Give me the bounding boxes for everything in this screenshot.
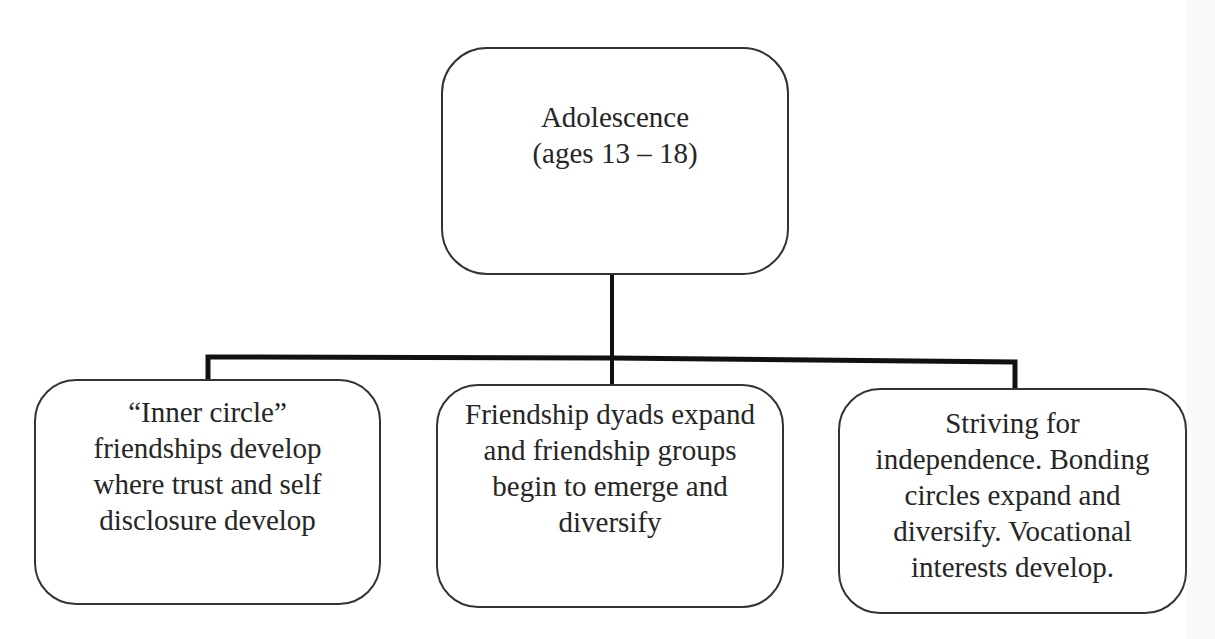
- root-node-label: Adolescence (ages 13 – 18): [443, 49, 787, 171]
- child-node-label: Friendship dyads expand and friendship g…: [438, 386, 782, 540]
- child-node-inner-circle: “Inner circle” friendships develop where…: [34, 379, 381, 605]
- child-node-label: “Inner circle” friendships develop where…: [36, 381, 379, 538]
- child-node-friendship-dyads: Friendship dyads expand and friendship g…: [436, 384, 784, 608]
- root-node-adolescence: Adolescence (ages 13 – 18): [441, 47, 789, 275]
- child-node-independence: Striving for independence. Bonding circl…: [838, 388, 1187, 614]
- child-node-label: Striving for independence. Bonding circl…: [840, 390, 1185, 585]
- diagram-canvas: Adolescence (ages 13 – 18) “Inner circle…: [0, 0, 1215, 639]
